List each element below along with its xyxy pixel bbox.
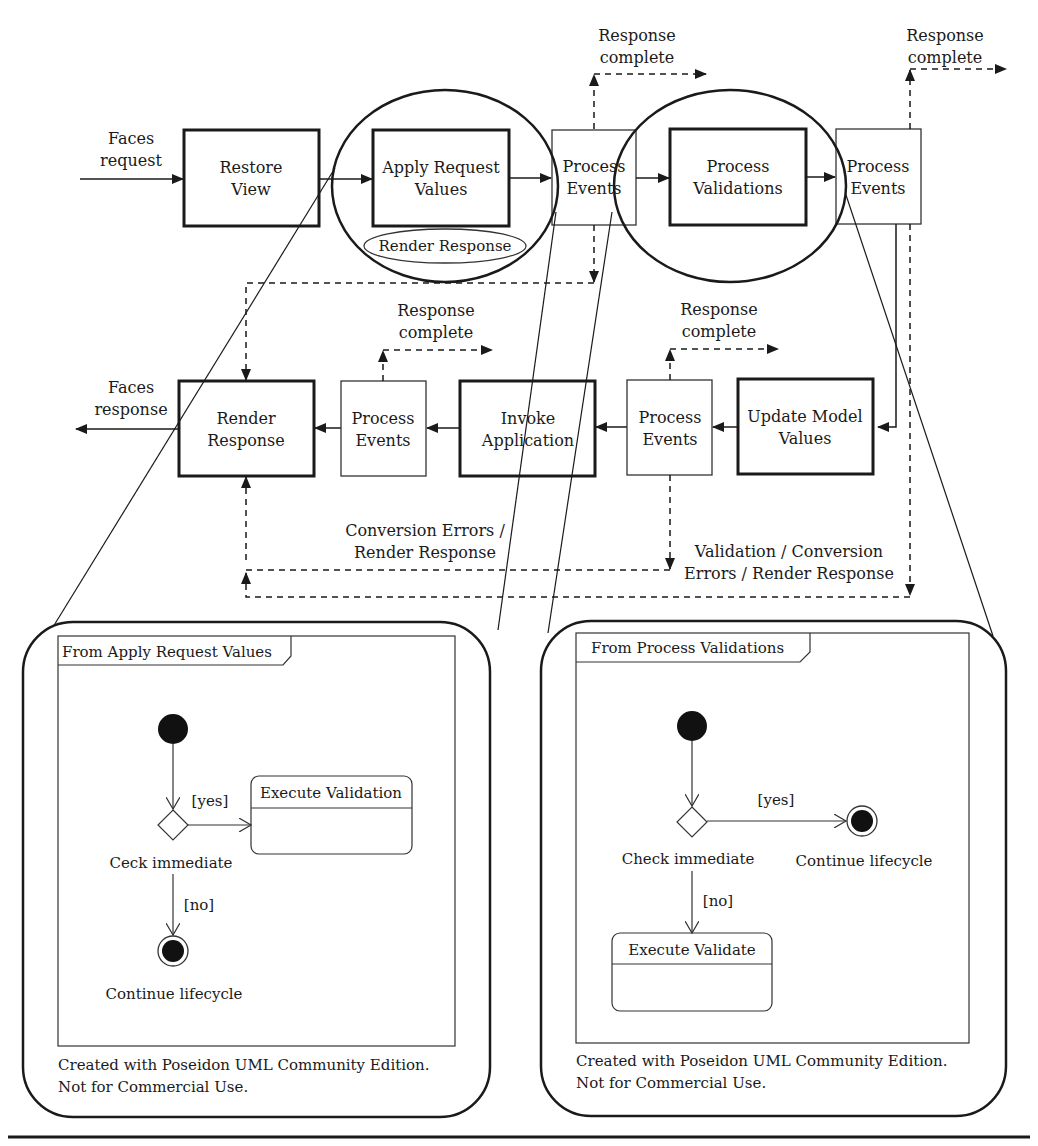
- right-final-node-icon: [847, 806, 877, 836]
- left-footer-line-1: Created with Poseidon UML Community Edit…: [58, 1056, 430, 1074]
- response-complete-label-4: Response complete: [680, 300, 758, 341]
- svg-text:complete: complete: [600, 48, 675, 67]
- right-footer-line-1: Created with Poseidon UML Community Edit…: [576, 1052, 948, 1070]
- faces-response-label: Faces response: [94, 378, 167, 419]
- svg-text:Events: Events: [642, 430, 697, 449]
- left-detail-panel: [23, 622, 490, 1117]
- svg-text:Response: Response: [906, 26, 984, 45]
- conversion-errors-label: Conversion Errors / Render Response: [345, 521, 505, 562]
- process-validations-box: Process Validations: [670, 129, 806, 225]
- svg-text:Response: Response: [598, 26, 676, 45]
- left-decision-diamond-icon: [158, 810, 188, 840]
- left-no-label: [no]: [184, 896, 214, 914]
- svg-text:Restore: Restore: [220, 158, 283, 177]
- left-initial-node-icon: [158, 714, 188, 744]
- response-complete-label-2: Response complete: [906, 26, 984, 67]
- right-yes-label: [yes]: [758, 791, 795, 809]
- svg-text:Values: Values: [414, 180, 468, 199]
- svg-text:Validations: Validations: [692, 179, 782, 198]
- svg-text:Update Model: Update Model: [747, 407, 862, 426]
- left-decision-label: Ceck immediate: [110, 854, 233, 872]
- response-complete-label-3: Response complete: [397, 301, 475, 342]
- right-execute-validate-state: Execute Validate: [612, 933, 772, 1011]
- events2-to-update-model-arrow: [878, 224, 896, 427]
- svg-text:complete: complete: [682, 322, 757, 341]
- process-events-box-1: Process Events: [552, 130, 636, 225]
- svg-text:Values: Values: [778, 429, 832, 448]
- left-footer-line-2: Not for Commercial Use.: [58, 1078, 248, 1096]
- svg-text:Process: Process: [639, 408, 702, 427]
- response-complete-label-1: Response complete: [598, 26, 676, 67]
- right-initial-node-icon: [677, 711, 707, 741]
- svg-text:Render: Render: [216, 409, 276, 428]
- left-final-node-icon: [158, 936, 188, 966]
- left-yes-label: [yes]: [192, 792, 229, 810]
- svg-text:Validation / Conversion: Validation / Conversion: [694, 542, 883, 561]
- jsf-lifecycle-diagram: Faces request Restore View Apply Request…: [0, 0, 1038, 1146]
- svg-text:Process: Process: [847, 157, 910, 176]
- left-execute-validation-state: Execute Validation: [251, 776, 412, 854]
- process-events-box-3: Process Events: [341, 381, 426, 476]
- svg-text:Errors / Render Response: Errors / Render Response: [684, 564, 894, 583]
- right-footer-line-2: Not for Commercial Use.: [576, 1074, 766, 1092]
- svg-text:Faces: Faces: [108, 378, 154, 397]
- svg-text:Response: Response: [680, 300, 758, 319]
- svg-text:Application: Application: [481, 431, 574, 450]
- right-no-label: [no]: [703, 892, 733, 910]
- svg-text:Faces: Faces: [108, 129, 154, 148]
- svg-text:Execute Validate: Execute Validate: [628, 941, 756, 959]
- process-events-box-4: Process Events: [627, 380, 712, 475]
- restore-view-box: Restore View: [184, 130, 319, 226]
- svg-text:Process: Process: [707, 157, 770, 176]
- svg-text:Execute Validation: Execute Validation: [260, 784, 402, 802]
- svg-text:Events: Events: [355, 431, 410, 450]
- update-model-values-box: Update Model Values: [738, 379, 873, 474]
- render-response-box: Render Response: [179, 381, 314, 476]
- svg-text:Apply Request: Apply Request: [381, 158, 500, 177]
- right-decision-label: Check immediate: [622, 850, 755, 868]
- invoke-application-box: Invoke Application: [460, 381, 595, 476]
- process-events-box-2: Process Events: [836, 129, 921, 224]
- left-final-label: Continue lifecycle: [106, 985, 243, 1003]
- apply-request-values-box: Apply Request Values: [373, 130, 509, 226]
- svg-text:complete: complete: [908, 48, 983, 67]
- svg-text:complete: complete: [399, 323, 474, 342]
- svg-text:Render Response: Render Response: [379, 237, 512, 255]
- svg-text:Process: Process: [352, 409, 415, 428]
- svg-text:Conversion Errors /: Conversion Errors /: [345, 521, 505, 540]
- svg-text:View: View: [230, 180, 271, 199]
- right-final-label: Continue lifecycle: [796, 852, 933, 870]
- right-detail-panel: [541, 621, 1006, 1116]
- svg-text:Response: Response: [397, 301, 475, 320]
- svg-text:Render Response: Render Response: [354, 543, 496, 562]
- left-frame-title: From Apply Request Values: [62, 643, 272, 661]
- right-frame-title: From Process Validations: [591, 639, 784, 657]
- svg-text:Events: Events: [850, 179, 905, 198]
- svg-text:request: request: [100, 151, 162, 170]
- validation-errors-label: Validation / Conversion Errors / Render …: [684, 542, 894, 583]
- right-decision-diamond-icon: [677, 807, 707, 837]
- svg-text:Response: Response: [207, 431, 285, 450]
- render-response-oval: Render Response: [364, 229, 526, 263]
- faces-request-label: Faces request: [100, 129, 162, 170]
- svg-text:response: response: [94, 400, 167, 419]
